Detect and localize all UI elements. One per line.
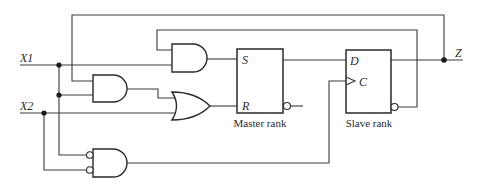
master-qbar-bubble-icon — [284, 103, 291, 110]
slave-d-pin-label: D — [349, 54, 359, 68]
and-gate-feedback-x1 — [93, 75, 127, 102]
slave-rank-flip-flop: D C Slave rank — [346, 50, 398, 129]
and-gate-inverted-inputs — [93, 149, 127, 177]
inverter-bubble-icon — [87, 152, 94, 159]
master-rank-caption: Master rank — [234, 117, 287, 129]
junction-dot-x2 — [41, 110, 46, 115]
x1-branch-wire — [59, 65, 87, 155]
inverter-bubble-icon — [87, 167, 94, 174]
junction-dot-x1 — [56, 62, 61, 67]
junction-dot-z — [441, 57, 447, 63]
master-s-pin-label: S — [242, 53, 248, 67]
master-slave-circuit-diagram: S R Master rank D C Slave rank X1 X2 Z — [0, 0, 482, 187]
master-r-pin-label: R — [241, 99, 250, 113]
master-rank-flip-flop: S R Master rank — [234, 49, 291, 129]
output-z-label: Z — [455, 46, 462, 60]
x2-branch-wire — [44, 113, 87, 170]
and1-to-or-wire — [127, 89, 177, 98]
or-gate-reset — [172, 92, 210, 120]
input-x1-label: X1 — [19, 51, 33, 65]
slave-c-pin-label: C — [359, 75, 368, 89]
slave-rank-caption: Slave rank — [346, 117, 393, 129]
input-x2-label: X2 — [19, 99, 33, 113]
and-gate-x1-zbar — [172, 44, 207, 72]
slave-qbar-bubble-icon — [391, 104, 398, 111]
junction-dot-x1-and1 — [56, 92, 61, 97]
